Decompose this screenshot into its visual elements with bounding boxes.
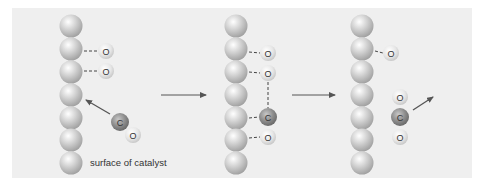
oxygen-label: O [396,133,403,143]
catalyst-atom [225,61,248,84]
catalyst-atom [60,152,83,175]
catalyst-atom [60,61,83,84]
carbon-label: C [117,118,124,128]
oxygen-label: O [264,69,271,79]
departure-arrow [413,97,433,110]
caption-surface-of-catalyst: surface of catalyst [90,157,167,168]
oxygen-label: O [387,49,394,59]
catalyst-atom [351,129,374,152]
catalyst-atom [60,129,83,152]
catalyst-atom [225,84,248,107]
bond-dashed [375,51,383,53]
catalyst-atom [60,15,83,38]
stage-2: O O O C [225,15,278,175]
catalyst-atom [225,15,248,38]
carbon-label: C [265,113,272,123]
bond-dashed [249,52,260,53]
catalyst-atom [351,61,374,84]
bond-dashed [249,117,259,118]
catalyst-atom [351,107,374,130]
oxygen-label: O [129,131,136,141]
catalyst-atom [225,152,248,175]
catalyst-atom [225,129,248,152]
stage-3: O O O C [351,15,434,175]
approach-arrow [86,100,110,114]
stage-1: O O O C surface of catalyst [60,15,167,175]
catalyst-atom [225,38,248,61]
oxygen-label: O [264,133,271,143]
catalyst-atom [60,38,83,61]
bond-dashed [249,72,260,73]
oxygen-label: O [264,49,271,59]
oxygen-label: O [102,47,109,57]
catalyst-diagram: O O O C surface of catalyst O O [0,0,478,189]
bond-dashed [249,137,260,138]
catalyst-atom [60,84,83,107]
catalyst-surface-2 [225,15,248,175]
catalyst-atom [351,152,374,175]
catalyst-atom [351,38,374,61]
carbon-label: C [397,113,404,123]
catalyst-atom [351,15,374,38]
catalyst-atom [225,107,248,130]
catalyst-atom [351,84,374,107]
catalyst-surface-1 [60,15,83,175]
oxygen-label: O [102,67,109,77]
oxygen-label: O [396,93,403,103]
catalyst-atom [60,107,83,130]
catalyst-surface-3 [351,15,374,175]
